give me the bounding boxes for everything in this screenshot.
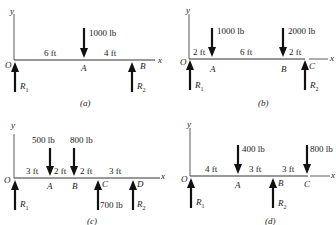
beam-diagram-b: y x O A B C 2 ft 6 ft 2 ft 1000 lb 2000 … — [168, 0, 336, 112]
reaction-arrow-icon — [129, 180, 137, 190]
reaction-arrow-icon — [187, 178, 195, 188]
load-label: 500 lb — [32, 136, 55, 145]
reaction-label-r2: R2 — [137, 82, 146, 93]
span-label: 2 ft — [289, 48, 301, 57]
span-label: 2 ft — [80, 167, 92, 176]
reaction-label-r2: R2 — [278, 199, 287, 210]
span-label: 3 ft — [282, 165, 294, 174]
point-label-b: B — [72, 182, 78, 191]
point-label-c: C — [102, 180, 108, 189]
y-axis-label: y — [186, 6, 190, 15]
span-label: 6 ft — [44, 49, 56, 58]
beam-diagram-a: y x O A B 6 ft 4 ft 1000 lb R1 R2 (a) — [0, 0, 168, 112]
load-arrow-icon — [46, 166, 54, 176]
reaction-arrow-icon — [269, 178, 277, 188]
diagram-caption: (b) — [258, 98, 269, 108]
point-label-b: B — [140, 62, 146, 71]
load-arrow-icon — [208, 47, 216, 57]
beam-diagram-c: y x O A B C D 3 ft 2 ft 2 ft 3 ft 500 lb… — [0, 112, 168, 224]
diagram-caption: (d) — [265, 216, 276, 225]
load-arrow-icon — [303, 164, 311, 174]
point-label-a: A — [81, 64, 87, 73]
point-label-a: A — [210, 65, 216, 74]
load-label: 800 lb — [70, 136, 93, 145]
span-label: 3 ft — [249, 165, 261, 174]
span-label: 6 ft — [240, 48, 252, 57]
origin-label: O — [180, 58, 187, 67]
load-arrow-icon — [70, 166, 78, 176]
reaction-label-r1: R1 — [20, 82, 29, 93]
load-label: 700 lb — [100, 201, 123, 210]
load-arrow-icon — [279, 47, 287, 57]
origin-label: O — [4, 176, 11, 185]
beam-a-graphic — [0, 0, 168, 112]
point-label-b: B — [281, 65, 287, 74]
x-axis-label: x — [330, 54, 334, 63]
load-arrow-icon — [94, 180, 102, 190]
span-label: 3 ft — [109, 167, 121, 176]
y-axis-label: y — [11, 121, 15, 130]
y-axis-label: y — [10, 7, 14, 16]
point-label-b: B — [278, 179, 284, 188]
reaction-arrow-icon — [301, 60, 309, 70]
reaction-label-r1: R1 — [195, 81, 204, 92]
beam-diagram-d: y x O A B C 4 ft 3 ft 3 ft 400 lb 800 lb… — [168, 112, 336, 224]
span-label: 4 ft — [104, 49, 116, 58]
load-label: 2000 lb — [288, 27, 315, 36]
reaction-arrow-icon — [186, 60, 194, 70]
load-label: 800 lb — [310, 145, 333, 154]
y-axis-label: y — [187, 120, 191, 129]
diagram-caption: (c) — [87, 216, 97, 225]
span-label: 3 ft — [26, 167, 38, 176]
x-axis-label: x — [161, 172, 165, 181]
reaction-arrow-icon — [128, 62, 136, 72]
point-label-c: C — [304, 180, 310, 189]
point-label-d: D — [137, 180, 144, 189]
span-label: 2 ft — [54, 167, 66, 176]
x-axis-label: x — [331, 171, 335, 180]
load-label: 400 lb — [242, 145, 265, 154]
span-label: 2 ft — [193, 48, 205, 57]
load-label: 1000 lb — [89, 29, 116, 38]
load-arrow-icon — [80, 48, 88, 58]
load-label: 1000 lb — [217, 27, 244, 36]
reaction-label-r1: R1 — [20, 200, 29, 211]
load-arrow-icon — [234, 164, 242, 174]
reaction-arrow-icon — [11, 62, 19, 72]
point-label-a: A — [47, 182, 53, 191]
point-label-c: C — [309, 62, 315, 71]
origin-label: O — [181, 175, 188, 184]
diagram-caption: (a) — [80, 98, 91, 108]
point-label-a: A — [235, 181, 241, 190]
origin-label: O — [5, 61, 12, 70]
reaction-label-r2: R2 — [137, 200, 146, 211]
x-axis-label: x — [158, 56, 162, 65]
span-label: 4 ft — [205, 165, 217, 174]
reaction-arrow-icon — [11, 180, 19, 190]
reaction-label-r1: R1 — [196, 198, 205, 209]
reaction-label-r2: R2 — [310, 81, 319, 92]
